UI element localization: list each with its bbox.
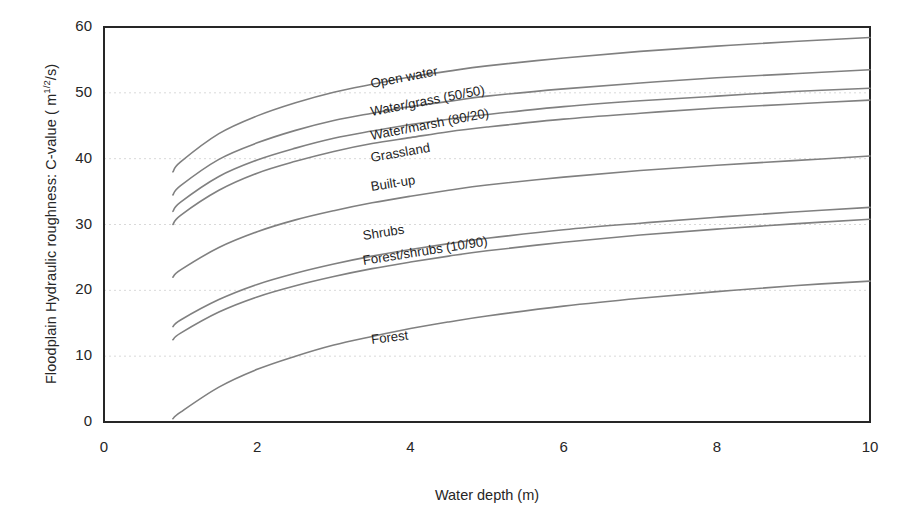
x-tick-label: 8 — [697, 438, 737, 455]
y-tick-label: 20 — [52, 280, 92, 297]
plot-area — [0, 0, 897, 527]
y-tick-label: 60 — [52, 17, 92, 34]
series-line-4 — [173, 156, 870, 277]
series-line-7 — [173, 281, 870, 419]
chart-figure: Floodplain Hydraulic roughness: C-value … — [0, 0, 897, 527]
y-tick-label: 0 — [52, 412, 92, 429]
x-tick-label: 2 — [237, 438, 277, 455]
series-line-6 — [173, 219, 870, 339]
y-tick-label: 40 — [52, 149, 92, 166]
series-line-1 — [173, 70, 870, 195]
x-tick-label: 6 — [544, 438, 584, 455]
y-tick-label: 10 — [52, 346, 92, 363]
series-line-2 — [173, 88, 870, 211]
x-tick-label: 4 — [390, 438, 430, 455]
y-tick-label: 50 — [52, 83, 92, 100]
y-tick-label: 30 — [52, 215, 92, 232]
x-tick-label: 10 — [850, 438, 890, 455]
x-tick-label: 0 — [84, 438, 124, 455]
